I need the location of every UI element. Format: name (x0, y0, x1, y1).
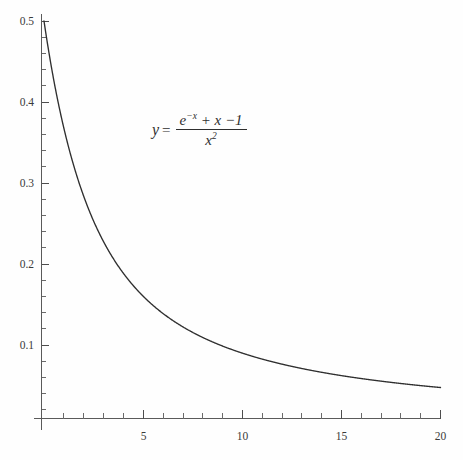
numerator-rest: + x −1 (201, 112, 243, 128)
curve-series-0 (44, 21, 441, 388)
chart-svg: 0.5 0.4 0.3 0.2 0.1 5 10 15 20 (0, 0, 463, 460)
equation-fraction: e−x + x −1 x2 (176, 112, 247, 148)
equation-annotation: y = e−x + x −1 x2 (152, 112, 247, 148)
plot-canvas: 0.5 0.4 0.3 0.2 0.1 5 10 15 20 y = e−x +… (0, 0, 463, 460)
y-axis-ticks (42, 21, 50, 410)
x-axis-ticks (64, 410, 441, 419)
x-axis-label-20: 20 (435, 430, 447, 442)
equation-lhs: y (152, 122, 159, 138)
denominator-x: x (205, 132, 212, 148)
numerator-exponent: −x (186, 111, 197, 121)
x-axis-label-5: 5 (141, 430, 147, 442)
y-axis-label-0.5: 0.5 (20, 15, 35, 27)
x-axis-label-15: 15 (336, 430, 348, 442)
y-axis-label-0.2: 0.2 (20, 258, 35, 270)
equation-equals-sign: = (162, 123, 170, 138)
y-axis-label-0.3: 0.3 (20, 177, 35, 189)
equation-denominator: x2 (201, 130, 220, 148)
y-axis-label-0.1: 0.1 (20, 339, 35, 351)
equation-numerator: e−x + x −1 (176, 112, 247, 129)
denominator-exponent: 2 (212, 131, 217, 141)
x-axis-label-10: 10 (237, 430, 249, 442)
y-axis-label-0.4: 0.4 (20, 96, 35, 108)
